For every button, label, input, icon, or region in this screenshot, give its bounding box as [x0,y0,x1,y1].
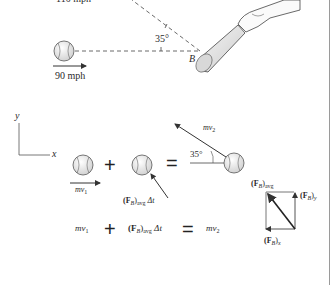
mv2-label: mv2 [203,123,215,133]
equation-mv2: mv2 [206,223,220,234]
ball-initial [73,155,93,175]
force-avg-label: (FB)avg [251,179,274,189]
ball-impulse [132,155,152,175]
force-components-diagram [266,192,295,229]
final-angle-label: 35° [190,149,203,159]
plus-operator: + [104,155,116,175]
impulse-label: (FB)avg Δt [123,196,155,206]
coordinate-axes [19,123,50,155]
x-axis-label: x [52,148,56,159]
ball-final [224,153,244,173]
incoming-speed-label: 90 mph [55,70,85,81]
equals-operator: = [166,153,178,173]
outgoing-speed-label: 110 mph [56,0,91,4]
y-axis-label: y [15,110,19,121]
baseball-icon [54,41,74,61]
point-b-label: B [189,53,195,64]
angle-label: 35° [155,33,169,44]
mv1-label: mv1 [75,185,87,195]
force-y-label: (FB)y [300,191,317,201]
equation-equals: = [182,219,194,239]
force-x-label: (FB)x [264,236,281,246]
equation-mv1: mv1 [75,223,89,234]
equation-plus: + [104,219,116,239]
bat-icon [193,25,245,75]
hand-icon [238,0,300,32]
page-edge-rule [329,0,330,285]
impulse-arrow [151,174,168,198]
equation-impulse: (FB)avg Δt [128,223,162,234]
